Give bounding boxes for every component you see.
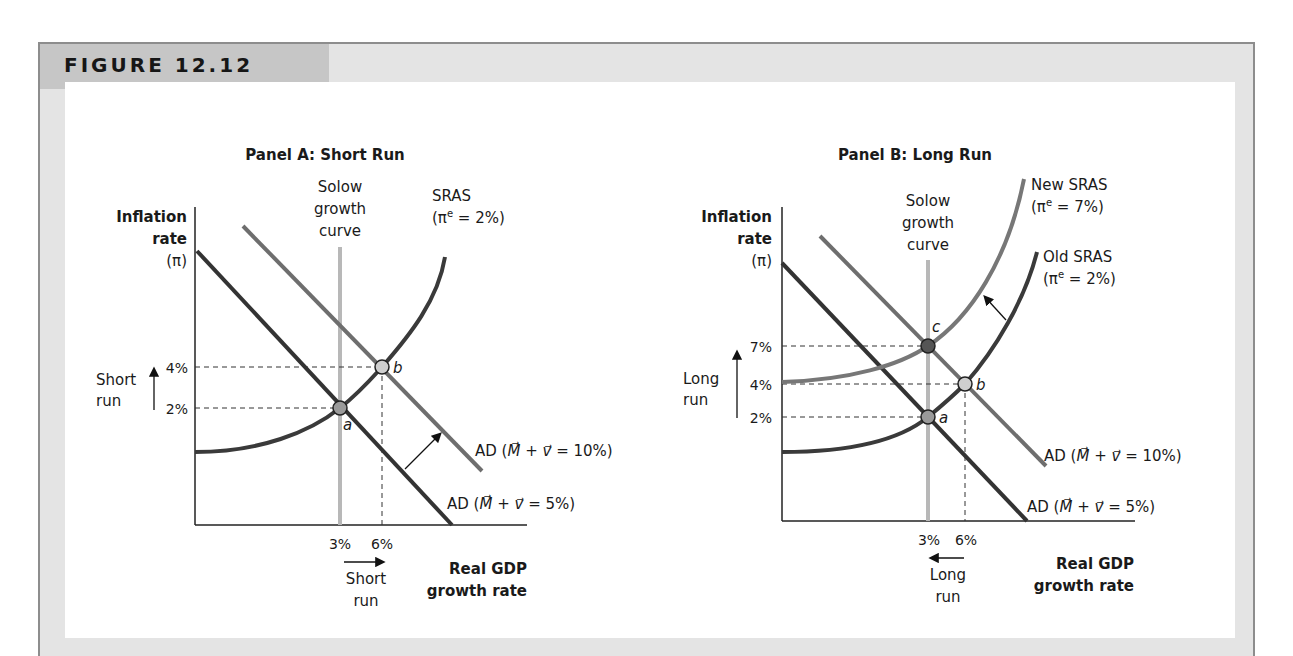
panel-a-point-b: [375, 360, 389, 374]
panel-a-ad-10-label: AD (M⃗ + v⃗ = 10%): [475, 441, 613, 460]
panel-a-label-a: a: [343, 416, 352, 434]
panel-b: Panel B: Long Run Solow growth curve New…: [683, 146, 1182, 606]
svg-text:Real GDP: Real GDP: [1056, 555, 1134, 573]
svg-text:Inflation: Inflation: [701, 208, 772, 226]
svg-text:growth: growth: [902, 214, 954, 232]
panel-a-ad-10: [243, 226, 482, 471]
panel-b-x-annotation: Long run: [930, 566, 966, 606]
figure-chart: Panel A: Short Run Solow growth curve SR…: [0, 0, 1293, 656]
panel-a-xtick-6: 6%: [371, 536, 393, 552]
panel-a-label-b: b: [393, 359, 403, 377]
panel-b-label-c: c: [932, 318, 941, 336]
svg-text:(π): (π): [751, 252, 772, 270]
panel-b-point-c: [921, 339, 935, 353]
svg-text:growth rate: growth rate: [1034, 577, 1134, 595]
panel-b-label-a: a: [939, 409, 948, 427]
svg-text:Real GDP: Real GDP: [449, 560, 527, 578]
panel-a-ytick-4: 4%: [166, 360, 188, 376]
panel-a-ylabel: Inflation rate (π): [116, 208, 187, 270]
svg-text:rate: rate: [152, 230, 187, 248]
panel-a-solow-label: Solow growth curve: [314, 178, 366, 240]
svg-text:Long: Long: [930, 566, 966, 584]
panel-b-xtick-3: 3%: [918, 532, 940, 548]
panel-a-sras-label: SRAS (πe = 2%): [432, 187, 505, 227]
panel-a-ad-5-label: AD (M⃗ + v⃗ = 5%): [447, 494, 575, 513]
svg-text:Short: Short: [96, 371, 136, 389]
panel-b-xtick-6: 6%: [955, 532, 977, 548]
panel-b-ylabel: Inflation rate (π): [701, 208, 772, 270]
svg-text:rate: rate: [737, 230, 772, 248]
panel-b-y-annotation: Long run: [683, 370, 719, 409]
panel-b-ytick-4: 4%: [750, 377, 772, 393]
svg-text:run: run: [96, 392, 121, 410]
panel-b-point-b: [958, 377, 972, 391]
panel-a-ytick-2: 2%: [166, 401, 188, 417]
panel-b-new-sras-label: New SRAS (πe = 7%): [1031, 176, 1108, 216]
svg-text:New SRAS: New SRAS: [1031, 176, 1108, 194]
panel-b-xlabel: Real GDP growth rate: [1034, 555, 1134, 595]
panel-b-ad-5: [782, 263, 1027, 521]
svg-text:Solow: Solow: [318, 178, 362, 196]
svg-text:(πe = 7%): (πe = 7%): [1031, 197, 1104, 216]
svg-text:Old SRAS: Old SRAS: [1043, 248, 1112, 266]
svg-text:run: run: [683, 391, 708, 409]
panel-b-ytick-7: 7%: [750, 339, 772, 355]
panel-a-ad-5: [197, 251, 452, 525]
panel-b-title: Panel B: Long Run: [838, 146, 992, 164]
svg-text:SRAS: SRAS: [432, 187, 471, 205]
svg-text:Long: Long: [683, 370, 719, 388]
panel-a: Panel A: Short Run Solow growth curve SR…: [96, 146, 613, 610]
panel-a-title: Panel A: Short Run: [245, 146, 405, 164]
panel-a-xtick-3: 3%: [329, 536, 351, 552]
svg-text:growth: growth: [314, 200, 366, 218]
svg-text:run: run: [353, 592, 378, 610]
panel-b-ad-10-label: AD (M⃗ + v⃗ = 10%): [1044, 446, 1182, 465]
panel-b-old-sras-curve: [782, 252, 1037, 452]
panel-b-ytick-2: 2%: [750, 410, 772, 426]
svg-text:curve: curve: [907, 236, 949, 254]
panel-b-shift-arrow: [985, 297, 1006, 320]
panel-b-label-b: b: [976, 376, 986, 394]
svg-text:run: run: [935, 588, 960, 606]
svg-text:(πe = 2%): (πe = 2%): [432, 208, 505, 227]
panel-b-new-sras-curve: [782, 179, 1024, 382]
panel-b-ad-5-label: AD (M⃗ + v⃗ = 5%): [1027, 497, 1155, 516]
panel-b-point-a: [921, 410, 935, 424]
panel-a-x-annotation: Short run: [346, 570, 386, 610]
svg-text:growth rate: growth rate: [427, 582, 527, 600]
panel-b-old-sras-label: Old SRAS (πe = 2%): [1043, 248, 1116, 288]
svg-text:Solow: Solow: [906, 192, 950, 210]
panel-a-xlabel: Real GDP growth rate: [427, 560, 527, 600]
svg-text:Short: Short: [346, 570, 386, 588]
svg-text:(π): (π): [166, 252, 187, 270]
svg-text:(πe = 2%): (πe = 2%): [1043, 269, 1116, 288]
panel-a-y-annotation: Short run: [96, 371, 136, 410]
svg-text:Inflation: Inflation: [116, 208, 187, 226]
svg-text:curve: curve: [319, 222, 361, 240]
panel-b-solow-label: Solow growth curve: [902, 192, 954, 254]
panel-a-point-a: [333, 401, 347, 415]
panel-a-shift-arrow: [405, 434, 440, 469]
